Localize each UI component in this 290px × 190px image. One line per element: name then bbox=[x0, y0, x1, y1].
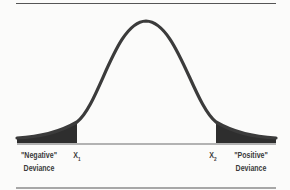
x1-subscript: 1 bbox=[78, 156, 81, 162]
negative-deviance-label: "Negative" Deviance bbox=[20, 149, 59, 174]
bell-curve bbox=[17, 21, 276, 138]
x2-subscript: 2 bbox=[214, 156, 217, 162]
x2-label: X2 bbox=[208, 149, 219, 165]
positive-deviance-label: "Positive" Deviance bbox=[232, 149, 271, 174]
positive-label-line2: Deviance bbox=[232, 162, 271, 174]
negative-label-line2: Deviance bbox=[20, 162, 59, 174]
x1-label: X1 bbox=[72, 149, 83, 165]
negative-label-line1: "Negative" bbox=[20, 149, 59, 161]
positive-label-line1: "Positive" bbox=[232, 149, 271, 161]
